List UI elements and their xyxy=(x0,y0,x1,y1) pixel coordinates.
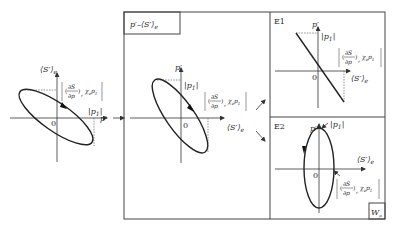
amplitude-label: |p1| xyxy=(321,32,335,42)
branch-arrow-up xyxy=(256,100,265,110)
left-panel: ⟨S′⟩e p′ 0 |p1| ( ∂S ∂p ) r χep1 xyxy=(10,65,107,162)
corner-label: Wp xyxy=(371,208,382,218)
pointer-arrow xyxy=(322,123,328,128)
svg-text:χep1: χep1 xyxy=(361,53,374,62)
axis-x-label: ⟨S′⟩e xyxy=(227,123,245,133)
svg-text:): ) xyxy=(78,87,80,94)
svg-text:∂p: ∂p xyxy=(343,189,350,197)
panel-tag: E2 xyxy=(274,122,285,131)
svg-text:): ) xyxy=(353,184,355,191)
svg-text:(: ( xyxy=(65,87,67,94)
hysteresis-diagram: ⟨S′⟩e p′ 0 |p1| ( ∂S ∂p ) r χep1 p′–⟨S′⟩… xyxy=(0,0,395,230)
svg-text:(: ( xyxy=(342,53,344,60)
origin-label: 0 xyxy=(183,121,188,130)
slope-label: ( ∂S ∂p ) r χep1 xyxy=(62,82,102,101)
svg-text:⟨S′⟩e: ⟨S′⟩e xyxy=(40,65,58,75)
amplitude-label: |p1| xyxy=(88,107,102,117)
amplitude-label: |p1| xyxy=(330,120,344,130)
slope-label: ( ∂S ∂p ) r χep1 xyxy=(339,48,381,67)
axis-y-label: p′ xyxy=(312,20,319,29)
svg-text:): ) xyxy=(221,97,223,104)
svg-text:r: r xyxy=(356,190,359,195)
svg-text:r: r xyxy=(358,59,361,64)
svg-text:∂p: ∂p xyxy=(345,58,352,66)
axis-y-label: p′ xyxy=(175,63,182,72)
svg-text:r: r xyxy=(81,93,84,98)
svg-text:∂S: ∂S xyxy=(345,49,352,56)
panel-title: p′–⟨S′⟩e xyxy=(130,20,158,30)
svg-text:∂S: ∂S xyxy=(211,93,218,100)
svg-text:χep1: χep1 xyxy=(227,97,240,106)
axis-x-label: ⟨S′⟩e xyxy=(357,155,375,165)
svg-text:∂p: ∂p xyxy=(211,102,218,110)
svg-text:(: ( xyxy=(340,184,342,191)
amplitude-label: |p1| xyxy=(184,81,198,91)
middle-panel: p′–⟨S′⟩e p′ ⟨S′⟩e 0 |p1| ( ∂S ∂p ) r χep… xyxy=(124,12,265,163)
svg-text:): ) xyxy=(355,53,357,60)
slope-label: ( ∂S ∂p ) r χep1 xyxy=(205,92,246,111)
pointer-arrow xyxy=(334,171,340,176)
axis-y-label: ⟨S′⟩ xyxy=(40,65,54,74)
svg-text:∂S: ∂S xyxy=(68,83,75,90)
panel-e1: E1 p′ ⟨S′⟩e 0 |p1| ( ∂S ∂p ) r χep1 xyxy=(274,17,381,108)
loop-ellipse xyxy=(143,72,216,160)
origin-label: 0 xyxy=(312,73,317,82)
panel-tag: E1 xyxy=(274,17,285,26)
slope-label: ( ∂S ∂p ) r χep1 xyxy=(337,179,379,199)
svg-text:(: ( xyxy=(208,97,210,104)
direction-arrow-icon xyxy=(187,104,194,112)
panel-e2: E2 p′ |p1| ⟨S′⟩e 0 ( ∂S ∂p ) r χep1 Wp xyxy=(274,120,385,219)
svg-text:r: r xyxy=(224,103,227,108)
svg-text:χep1: χep1 xyxy=(359,184,372,193)
axis-y-label: p′ xyxy=(310,124,317,133)
origin-label: 0 xyxy=(313,171,318,180)
svg-text:χep1: χep1 xyxy=(84,87,97,96)
linear-response-line xyxy=(296,33,344,102)
origin-label: 0 xyxy=(51,119,56,128)
branch-arrow-down xyxy=(256,131,265,141)
svg-text:∂p: ∂p xyxy=(68,92,75,100)
svg-text:∂S: ∂S xyxy=(343,180,350,187)
axis-x-label: ⟨S′⟩e xyxy=(351,74,369,84)
